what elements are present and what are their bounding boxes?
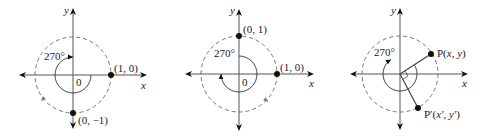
point-label: (1, 0) bbox=[114, 62, 138, 75]
x-axis-label: x bbox=[308, 77, 314, 89]
angle-label-270: 270° bbox=[44, 50, 65, 62]
unit-circle-rotation-figure: xy270°0(1, 0)(0, −1)xy270°0(0, 1)(1, 0)x… bbox=[0, 0, 488, 140]
y-axis-label: y bbox=[229, 4, 235, 16]
diagram-panel-2: xy270°0(0, 1)(1, 0) bbox=[185, 4, 314, 131]
diagram-panel-1: xy270°0(1, 0)(0, −1) bbox=[19, 4, 147, 129]
x-axis-label: x bbox=[140, 79, 146, 91]
rotation-arrowhead bbox=[219, 74, 224, 79]
origin-label: 0 bbox=[242, 76, 248, 88]
point-label-P: P(x, y) bbox=[437, 47, 466, 60]
point-label: (1, 0) bbox=[280, 61, 304, 74]
origin-label: 0 bbox=[76, 76, 82, 88]
y-axis-label: y bbox=[390, 4, 396, 16]
angle-label-270: 270° bbox=[374, 46, 395, 58]
figure-canvas: xy270°0(1, 0)(0, −1)xy270°0(0, 1)(1, 0)x… bbox=[0, 0, 488, 140]
point-dot bbox=[236, 33, 242, 39]
y-axis-label: y bbox=[63, 4, 69, 16]
point-label-P-prime: P′(x′, y′) bbox=[424, 108, 460, 121]
x-axis-label: x bbox=[461, 77, 467, 89]
point-dot bbox=[415, 105, 421, 111]
point-label: (0, −1) bbox=[78, 114, 108, 127]
point-dot bbox=[428, 51, 434, 57]
point-dot bbox=[70, 110, 76, 116]
rotation-arrowhead bbox=[68, 55, 73, 60]
segment-OP bbox=[400, 54, 431, 74]
diagram-panel-3: xy270°P(x, y)P′(x′, y′) bbox=[350, 4, 468, 130]
point-label: (0, 1) bbox=[243, 23, 267, 36]
angle-label-270: 270° bbox=[214, 47, 235, 59]
